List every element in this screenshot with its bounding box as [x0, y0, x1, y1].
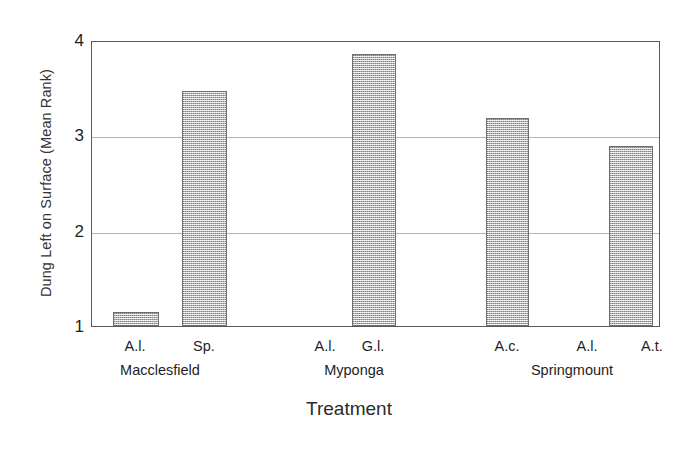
x-cat-label-myponga-gl: G.l. [362, 338, 385, 354]
y-tick-label-1: 1 [56, 317, 84, 337]
x-cat-label-springmount-ac: A.c. [495, 338, 520, 354]
x-group-label-myponga: Myponga [324, 362, 384, 378]
bar-springmount-ac [486, 118, 529, 326]
plot-area [91, 41, 660, 327]
y-tick-label-4: 4 [56, 31, 84, 51]
bar-macclesfield-sp [182, 91, 227, 326]
bar-macclesfield-al [113, 312, 159, 326]
y-tick-label-3: 3 [56, 126, 84, 146]
bar-myponga-gl [352, 54, 396, 326]
x-group-label-springmount: Springmount [531, 362, 613, 378]
bar-springmount-at [609, 146, 653, 326]
x-cat-label-myponga-al: A.l. [315, 338, 336, 354]
x-axis-title: Treatment [0, 398, 698, 420]
x-group-label-macclesfield: Macclesfield [120, 362, 200, 378]
x-cat-label-macclesfield-sp: Sp. [193, 338, 215, 354]
x-cat-label-springmount-at: A.t. [641, 338, 663, 354]
x-cat-label-macclesfield-al: A.l. [125, 338, 146, 354]
x-cat-label-springmount-al: A.l. [577, 338, 598, 354]
y-axis-ticks: 4 3 2 1 [52, 41, 84, 327]
y-tick-label-2: 2 [56, 222, 84, 242]
bar-chart-figure: Dung Left on Surface (Mean Rank) 4 3 2 1… [0, 0, 698, 452]
